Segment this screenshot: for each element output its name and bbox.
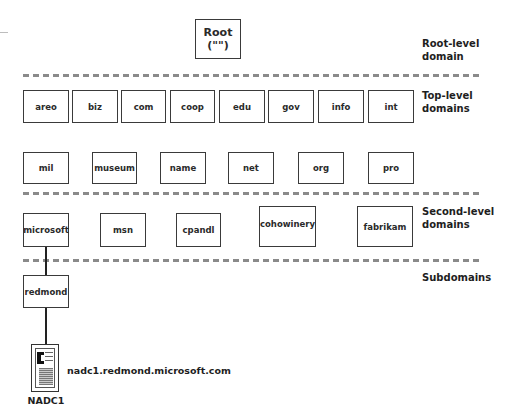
tld-box-coop: coop [170,90,215,123]
level-label-top-line2: domains [422,102,473,115]
server-bay-lines [45,352,53,364]
divider-second-sub [23,259,483,262]
sld-label: cpandl [183,225,215,235]
root-domain-box: Root ("") [195,19,241,59]
subdomain-box-redmond: redmond [23,275,69,308]
tld-box-biz: biz [72,90,118,123]
tld-label: net [243,163,259,173]
tld-box-org: org [298,152,344,184]
tld-box-net: net [228,152,274,184]
host-fqdn: nadc1.redmond.microsoft.com [67,365,231,376]
tld-label: biz [88,102,102,112]
sld-label: cohowinery [260,219,315,229]
sld-label: msn [113,225,133,235]
level-label-top: Top-level domains [422,89,473,115]
tld-label: org [313,163,329,173]
level-label-second: Second-level domains [422,205,494,231]
connector-microsoft-redmond [45,247,47,275]
tld-box-info: info [318,90,364,123]
tld-label: gov [282,102,299,112]
tld-label: mil [39,163,54,173]
connector-redmond-server [45,308,47,344]
tld-box-mil: mil [23,152,69,184]
level-label-sub-line1: Subdomains [422,271,491,284]
tld-box-pro: pro [368,152,414,184]
tld-label: int [384,102,397,112]
tld-box-edu: edu [219,90,265,123]
host-name: NADC1 [26,395,66,406]
tld-box-museum: museum [92,152,137,184]
tld-box-areo: areo [23,90,69,123]
sld-box-fabrikam: fabrikam [357,206,413,247]
root-label: Root [204,26,233,39]
divider-top-second [23,192,483,195]
edge-stub-line [0,32,8,33]
tld-label: areo [35,102,57,112]
sld-box-cpandl: cpandl [176,213,221,247]
level-label-root: Root-level domain [422,37,479,63]
sld-box-msn: msn [100,213,146,247]
sld-box-cohowinery: cohowinery [259,206,316,247]
sld-box-microsoft: microsoft [23,213,69,247]
level-label-second-line2: domains [422,218,494,231]
tld-label: museum [94,163,135,173]
tld-label: coop [181,102,204,112]
level-label-sub: Subdomains [422,271,491,284]
sld-label: fabrikam [364,222,407,232]
tld-label: pro [383,163,399,173]
server-drive-notch [41,355,44,361]
server-panel [35,348,55,388]
sld-label: microsoft [23,225,69,235]
level-label-second-line1: Second-level [422,205,494,218]
tld-label: info [332,102,351,112]
subdomain-label: redmond [25,287,68,297]
level-label-root-line1: Root-level [422,37,479,50]
tld-box-com: com [121,90,166,123]
tld-box-int: int [368,90,414,123]
tld-label: com [134,102,154,112]
tld-box-gov: gov [268,90,314,123]
tld-box-name: name [160,152,206,184]
divider-root-top [23,74,483,77]
server-icon [31,344,59,392]
server-vent-stripes [39,368,53,385]
level-label-root-line2: domain [422,50,479,63]
level-label-top-line1: Top-level [422,89,473,102]
root-value: ("") [207,39,229,52]
tld-label: name [170,163,196,173]
tld-label: edu [233,102,251,112]
